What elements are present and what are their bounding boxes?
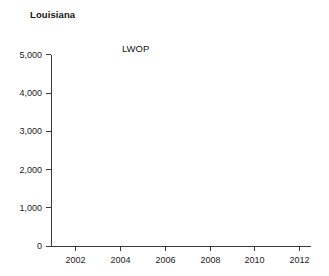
x-tick-label-2010: 2010 <box>234 255 275 265</box>
plot-area[interactable] <box>52 55 311 246</box>
x-tick-label-2008: 2008 <box>190 255 231 265</box>
series-label-lwop: LWOP <box>122 43 149 55</box>
y-tick-label-3000: 3,000 <box>0 126 42 136</box>
chart-figure: Louisiana LWOP 5,00 <box>0 0 329 276</box>
y-tick-label-4000: 4,000 <box>0 88 42 98</box>
y-tick-label-1000: 1,000 <box>0 203 42 213</box>
y-axis-ticks <box>46 55 51 247</box>
x-tick-label-2002: 2002 <box>55 255 96 265</box>
x-tick-label-2012: 2012 <box>279 255 320 265</box>
x-tick-label-2004: 2004 <box>100 255 141 265</box>
x-tick-label-2006: 2006 <box>145 255 186 265</box>
y-tick-label-2000: 2,000 <box>0 165 42 175</box>
y-tick-label-0: 0 <box>0 241 42 251</box>
y-tick-label-5000: 5,000 <box>0 50 42 60</box>
